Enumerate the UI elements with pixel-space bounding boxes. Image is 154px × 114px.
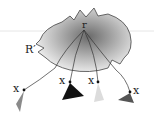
diagram-canvas	[0, 0, 154, 114]
subtree-triangle-4	[118, 93, 134, 103]
leaf-label-2: x	[59, 75, 65, 86]
subtree-triangle-2	[62, 83, 84, 100]
leaf-label-4: x	[133, 85, 139, 96]
region-blob	[36, 8, 131, 72]
leaf-label-3: x	[88, 75, 94, 86]
region-label: R′	[25, 44, 36, 55]
subtree-triangle-3	[94, 83, 104, 102]
leaf-label-1: x	[13, 83, 19, 94]
root-label: r	[82, 20, 87, 30]
